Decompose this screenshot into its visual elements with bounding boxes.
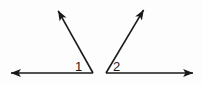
angle-2-label: 2 bbox=[113, 60, 120, 73]
angle-1-label: 1 bbox=[75, 60, 82, 73]
right-slanted-ray bbox=[106, 10, 144, 73]
geometry-diagram-canvas bbox=[0, 0, 203, 85]
geometry-figure: 1 2 bbox=[0, 0, 203, 85]
